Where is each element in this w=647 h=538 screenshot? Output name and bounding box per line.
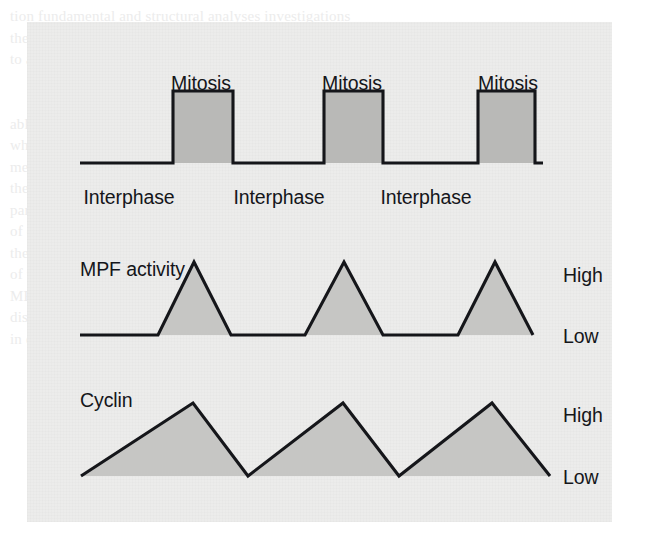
mitosis-label-3: Mitosis: [478, 72, 538, 95]
mitosis-shaded-blocks: [173, 91, 535, 163]
cyclin-plot: [81, 403, 550, 476]
mitosis-label-2: Mitosis: [322, 72, 382, 95]
cyclin-title: Cyclin: [80, 389, 133, 412]
interphase-label-2: Interphase: [233, 186, 324, 209]
cyclin-low-tick-label: Low: [563, 466, 598, 489]
mpf-low-tick-label: Low: [563, 325, 598, 348]
mitosis-label-1: Mitosis: [171, 72, 231, 95]
interphase-label-1: Interphase: [83, 186, 174, 209]
cell-cycle-square-wave: [80, 91, 543, 163]
cell-cycle-trace: [80, 91, 543, 163]
figure-root: tion fundamental and structural analyses…: [0, 0, 647, 538]
mpf-high-tick-label: High: [563, 264, 603, 287]
cyclin-high-tick-label: High: [563, 404, 603, 427]
interphase-label-3: Interphase: [380, 186, 471, 209]
mpf-activity-title: MPF activity: [80, 258, 185, 281]
